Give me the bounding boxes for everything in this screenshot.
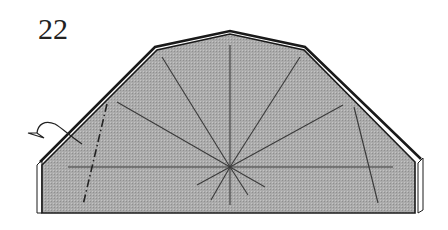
paper-shape: [42, 34, 415, 213]
fold-diagram: [0, 0, 448, 230]
